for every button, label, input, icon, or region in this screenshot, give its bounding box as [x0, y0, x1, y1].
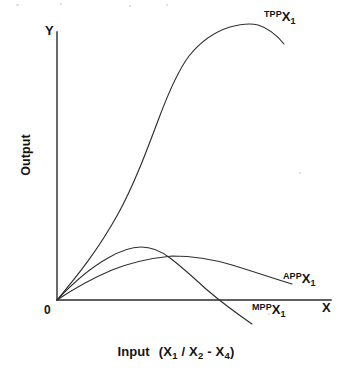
curve-label-app-prefix: APP	[283, 271, 302, 281]
caption-expr-dot: - X	[203, 344, 224, 359]
chart-canvas	[0, 0, 352, 376]
x-axis-letter: X	[322, 300, 331, 315]
curve-label-mpp-sub: 1	[281, 309, 286, 319]
curve-label-mpp-base: X	[272, 302, 281, 317]
curve-label-app: APPX1	[283, 272, 316, 288]
curve-app	[57, 256, 292, 300]
curve-label-tpp: TPPX1	[264, 10, 296, 26]
curve-label-mpp-prefix: MPP	[252, 302, 272, 312]
curve-label-app-base: X	[302, 271, 311, 286]
caption-expr-close: )	[230, 344, 235, 359]
curve-label-mpp: MPPX1	[252, 303, 286, 319]
caption-expr-open: (X	[159, 344, 172, 359]
origin-label: 0	[44, 303, 51, 317]
curve-label-tpp-sub: 1	[291, 16, 296, 26]
y-axis-title: Output	[19, 117, 33, 193]
x-axis-caption-prefix: Input	[118, 344, 150, 359]
curve-label-app-sub: 1	[311, 278, 316, 288]
x-axis-caption: Input(X1 / X2 - X4)	[0, 344, 352, 361]
caption-expr-slash: / X	[178, 344, 198, 359]
curve-label-tpp-prefix: TPP	[264, 9, 282, 19]
y-axis-letter: Y	[45, 23, 54, 38]
curve-label-tpp-base: X	[282, 9, 291, 24]
production-function-figure: Y X 0 Output TPPX1 APPX1 MPPX1 Input(X1 …	[0, 0, 352, 376]
x-axis-caption-expression: (X1 / X2 - X4)	[159, 344, 235, 359]
